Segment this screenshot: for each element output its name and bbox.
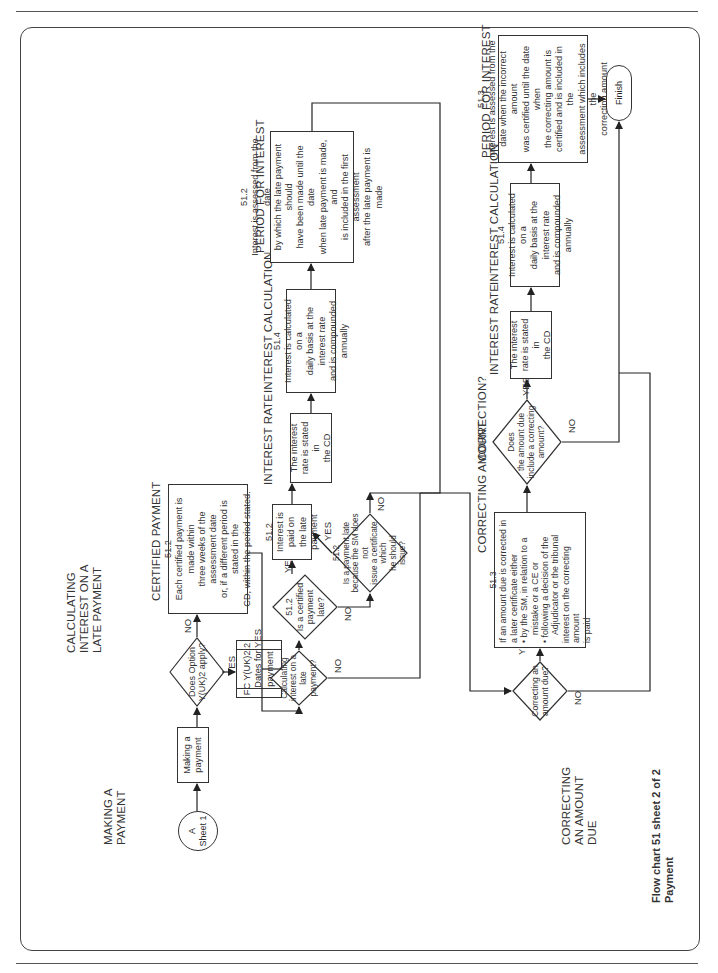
flow-arrows <box>0 0 718 973</box>
flowchart-canvas: MAKING A PAYMENT CALCULATING INTEREST ON… <box>0 0 718 973</box>
